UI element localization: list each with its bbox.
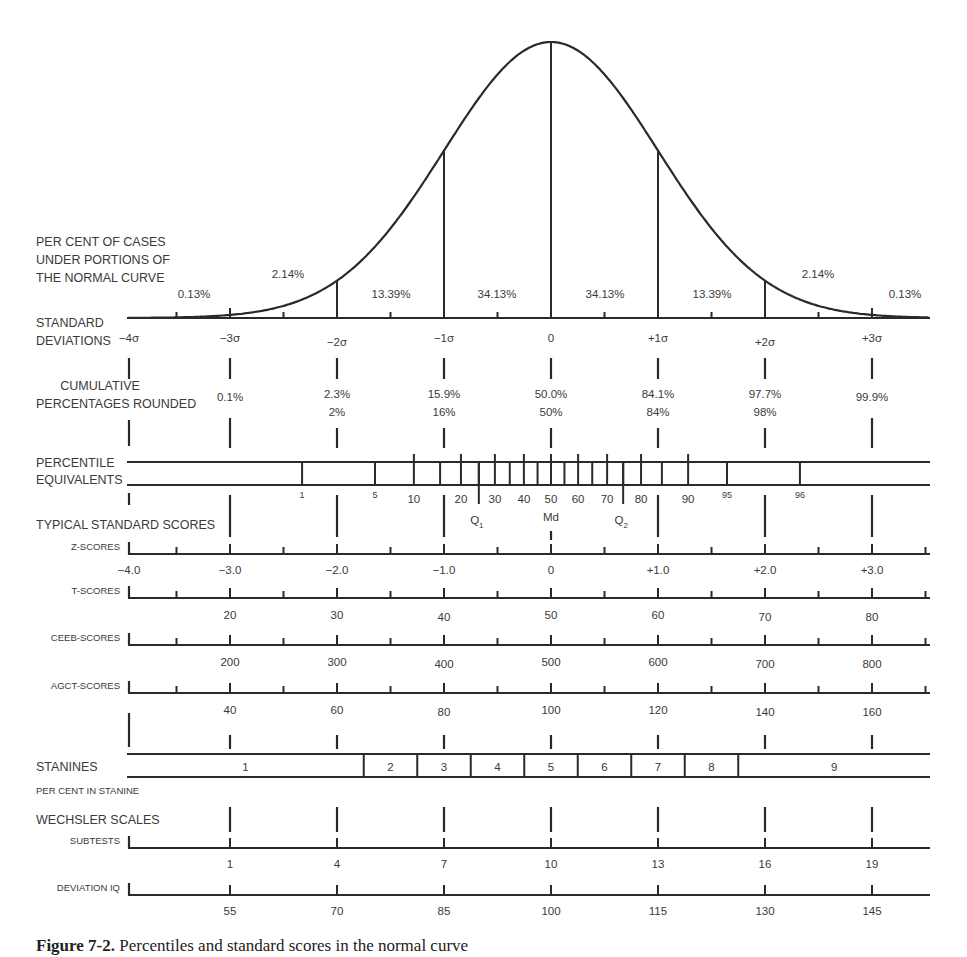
- cumulative-rounded-value: 98%: [753, 406, 776, 418]
- scale-value-label: 30: [331, 609, 344, 621]
- cumulative-label: PERCENTAGES ROUNDED: [36, 397, 196, 411]
- scale-value-label: 0: [548, 564, 554, 576]
- stanines-label: STANINES: [36, 760, 98, 774]
- scale-value-label: 50: [545, 609, 558, 621]
- scale-value-label: 80: [866, 611, 879, 623]
- per-cent-in-stanine-label: PER CENT IN STANINE: [36, 785, 139, 796]
- wechsler-value-label: 130: [755, 905, 774, 917]
- wechsler-value-label: 55: [224, 905, 237, 917]
- percentile-tick-label: 20: [455, 493, 468, 505]
- scale-value-label: 800: [862, 658, 881, 670]
- segment-percent-label: 0.13%: [178, 288, 211, 300]
- curve-section-label: THE NORMAL CURVE: [36, 271, 165, 285]
- scale-value-label: +2.0: [754, 564, 777, 576]
- percentile-tick-label: 70: [601, 493, 614, 505]
- stanine-value: 4: [494, 761, 501, 773]
- stanine-value: 8: [708, 761, 714, 773]
- percentile-tick-label: 50: [545, 493, 558, 505]
- percentile-label: EQUIVALENTS: [36, 473, 123, 487]
- caption-figure-label: Figure 7-2.: [36, 936, 115, 955]
- percentile-tick-label: 80: [635, 493, 648, 505]
- cumulative-rounded-value: 84%: [646, 406, 669, 418]
- percentile-tick-label: 60: [572, 493, 585, 505]
- wechsler-value-label: 7: [441, 858, 447, 870]
- wechsler-value-label: 70: [331, 905, 344, 917]
- stanine-value: 5: [548, 761, 554, 773]
- scale-value-label: −3.0: [219, 564, 242, 576]
- wechsler-value-label: 1: [227, 858, 233, 870]
- scale-value-label: 60: [652, 609, 665, 621]
- scale-value-label: 700: [755, 658, 774, 670]
- sigma-tick-label: −2σ: [327, 336, 347, 348]
- scale-value-label: 60: [331, 704, 344, 716]
- segment-percent-label: 13.39%: [371, 288, 410, 300]
- stanine-value: 9: [831, 761, 837, 773]
- scale-value-label: 400: [434, 658, 453, 670]
- wechsler-value-label: 145: [862, 905, 881, 917]
- scale-value-label: 160: [862, 706, 881, 718]
- quartile-subscript: 1: [479, 521, 484, 530]
- scale-label: Z-SCORES: [71, 541, 120, 552]
- cumulative-exact-value: 99.9%: [856, 391, 889, 403]
- stanine-value: 3: [441, 761, 447, 773]
- wechsler-scale-label: DEVIATION IQ: [57, 882, 120, 893]
- segment-percent-label: 34.13%: [585, 288, 624, 300]
- sigma-tick-label: −3σ: [220, 332, 240, 344]
- percentile-tick-label: 10: [407, 493, 420, 505]
- percentile-tick-label: 1: [300, 490, 305, 500]
- sigma-tick-label: +1σ: [648, 332, 668, 344]
- cumulative-rounded-value: 2%: [329, 406, 346, 418]
- cumulative-label: CUMULATIVE: [60, 379, 140, 393]
- segment-percent-label: 13.39%: [692, 288, 731, 300]
- wechsler-scale-label: SUBTESTS: [70, 835, 120, 846]
- stanine-value: 6: [601, 761, 607, 773]
- scale-value-label: 70: [759, 611, 772, 623]
- quartile-label: Q1: [470, 514, 484, 530]
- percentile-label: PERCENTILE: [36, 456, 115, 470]
- scale-value-label: 20: [224, 609, 237, 621]
- percentile-tick-label: 5: [372, 490, 377, 500]
- stanine-value: 2: [387, 761, 393, 773]
- wechsler-value-label: 115: [649, 905, 667, 917]
- cumulative-exact-value: 15.9%: [428, 388, 461, 400]
- sigma-tick-label: 0: [548, 332, 554, 344]
- scale-value-label: 40: [224, 704, 237, 716]
- percentile-tick-label: 95: [722, 490, 732, 500]
- wechsler-value-label: 13: [652, 858, 665, 870]
- standard-deviations-label: DEVIATIONS: [36, 334, 111, 348]
- scale-value-label: 500: [541, 656, 560, 668]
- scale-value-label: 120: [648, 704, 667, 716]
- cumulative-exact-value: 0.1%: [217, 391, 243, 403]
- wechsler-value-label: 4: [334, 858, 341, 870]
- scale-value-label: 140: [755, 706, 774, 718]
- scale-value-label: 200: [220, 656, 239, 668]
- quartile-subscript: 2: [623, 521, 628, 530]
- segment-percent-label: 34.13%: [477, 288, 516, 300]
- scale-value-label: 600: [648, 656, 667, 668]
- standard-deviations-label: STANDARD: [36, 316, 104, 330]
- segment-percent-label: 2.14%: [272, 268, 305, 280]
- figure-caption: Figure 7-2. Percentiles and standard sco…: [36, 936, 468, 956]
- scale-value-label: +3.0: [861, 564, 884, 576]
- cumulative-rounded-value: 50%: [539, 406, 562, 418]
- scale-value-label: +1.0: [647, 564, 670, 576]
- percentile-tick-label: 90: [682, 493, 695, 505]
- scale-value-label: −4.0: [118, 564, 141, 576]
- sigma-tick-label: +3σ: [862, 332, 882, 344]
- scale-value-label: 100: [541, 704, 560, 716]
- cumulative-exact-value: 84.1%: [642, 388, 675, 400]
- scale-value-label: −1.0: [433, 564, 456, 576]
- wechsler-value-label: 16: [759, 858, 772, 870]
- cumulative-exact-value: 50.0%: [535, 388, 568, 400]
- sigma-tick-label: −1σ: [434, 332, 454, 344]
- curve-section-label: UNDER PORTIONS OF: [36, 253, 170, 267]
- wechsler-value-label: 85: [438, 905, 451, 917]
- scale-value-label: 80: [438, 706, 451, 718]
- curve-section-label: PER CENT OF CASES: [36, 235, 166, 249]
- scale-label: CEEB-SCORES: [51, 632, 120, 643]
- percentile-tick-label: 30: [488, 493, 501, 505]
- median-label: Md: [543, 511, 559, 523]
- segment-percent-label: 0.13%: [889, 288, 922, 300]
- wechsler-value-label: 100: [541, 905, 560, 917]
